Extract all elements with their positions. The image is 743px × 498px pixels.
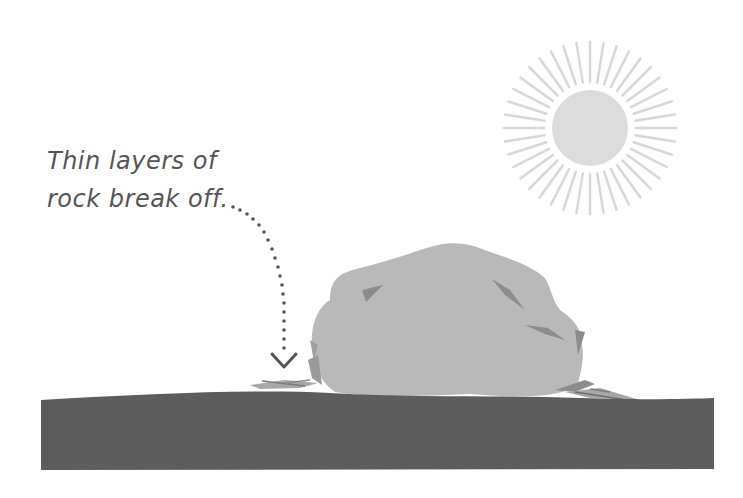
- boulder: [308, 243, 585, 396]
- sun-icon: [504, 42, 676, 214]
- ground: [41, 392, 714, 470]
- dotted-arrow-icon: [231, 205, 296, 367]
- rock-flakes-left: [250, 380, 318, 389]
